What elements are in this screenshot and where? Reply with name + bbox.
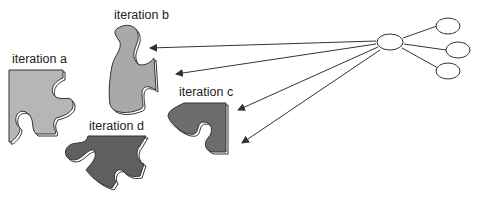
puzzle-piece-c — [168, 103, 228, 154]
arrow-to-c-lower — [242, 50, 380, 143]
child-node-3 — [436, 63, 460, 79]
hub-node — [377, 34, 403, 50]
label-iteration-b: iteration b — [114, 8, 169, 22]
label-iteration-a: iteration a — [12, 52, 67, 66]
child-node-2 — [446, 42, 470, 58]
puzzle-piece-a — [9, 70, 75, 144]
puzzle-piece-b — [109, 25, 158, 114]
label-iteration-c: iteration c — [179, 85, 233, 99]
node-tree — [377, 18, 470, 79]
arrow-to-c — [238, 47, 378, 110]
child-node-1 — [436, 18, 460, 34]
diagram-canvas — [0, 0, 477, 199]
arrow-to-c-area — [176, 44, 376, 74]
arrow-to-b — [150, 41, 376, 48]
puzzle-piece-d — [65, 136, 148, 190]
label-iteration-d: iteration d — [89, 119, 144, 133]
